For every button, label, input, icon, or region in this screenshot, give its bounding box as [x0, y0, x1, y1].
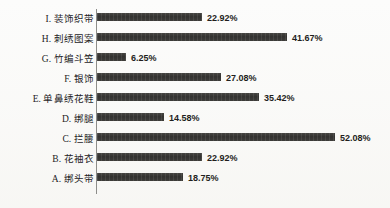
bar	[97, 53, 126, 61]
bar-value-label: 27.08%	[226, 71, 257, 85]
bar-row: F. 银饰27.08%	[0, 69, 390, 89]
bar-value-label: 6.25%	[131, 51, 157, 65]
bar-value-label: 18.75%	[188, 171, 219, 185]
bar-value-label: 22.92%	[207, 11, 238, 25]
bar-value-label: 35.42%	[264, 91, 295, 105]
plot-area: I. 装饰织带22.92%H. 刺绣图案41.67%G. 竹编斗笠6.25%F.…	[0, 0, 390, 208]
bar-value-label: 14.58%	[169, 111, 200, 125]
bar-row: H. 刺绣图案41.67%	[0, 29, 390, 49]
bar-row: I. 装饰织带22.92%	[0, 9, 390, 29]
bar	[97, 133, 335, 141]
bar	[97, 153, 202, 161]
category-label: D. 绑腿	[0, 111, 94, 127]
bar-value-label: 41.67%	[292, 31, 323, 45]
bar	[97, 113, 164, 121]
bar-row: C. 拦腰52.08%	[0, 129, 390, 149]
category-label: G. 竹编斗笠	[0, 51, 94, 67]
bar-row: G. 竹编斗笠6.25%	[0, 49, 390, 69]
category-label: B. 花袖衣	[0, 151, 94, 167]
bar-row: A. 绑头带18.75%	[0, 169, 390, 189]
bar	[97, 173, 183, 181]
bar-row: D. 绑腿14.58%	[0, 109, 390, 129]
category-label: H. 刺绣图案	[0, 31, 94, 47]
bar	[97, 33, 287, 41]
category-label: C. 拦腰	[0, 131, 94, 147]
bar-row: E. 单鼻绣花鞋35.42%	[0, 89, 390, 109]
bar	[97, 73, 221, 81]
bar-row: B. 花袖衣22.92%	[0, 149, 390, 169]
bar	[97, 13, 202, 21]
category-label: E. 单鼻绣花鞋	[0, 91, 94, 107]
category-label: A. 绑头带	[0, 171, 94, 187]
bar	[97, 93, 259, 101]
bar-value-label: 22.92%	[207, 151, 238, 165]
category-label: I. 装饰织带	[0, 11, 94, 27]
category-label: F. 银饰	[0, 71, 94, 87]
bar-value-label: 52.08%	[340, 131, 371, 145]
bar-chart: I. 装饰织带22.92%H. 刺绣图案41.67%G. 竹编斗笠6.25%F.…	[0, 0, 390, 208]
